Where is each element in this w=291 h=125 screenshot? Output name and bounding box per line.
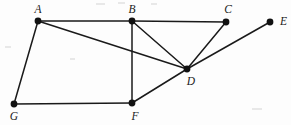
vertex-c [223,19,230,26]
edge-c-d [187,22,226,69]
edges-group [14,21,270,104]
vertex-label-b: B [128,3,135,15]
vertex-a [35,18,42,25]
vertex-e [267,19,274,26]
edge-a-d [38,21,187,69]
vertex-label-f: F [130,110,139,122]
edge-b-c [132,21,226,22]
vertices-group [11,18,274,108]
edge-d-e [187,22,270,69]
edge-a-g [14,21,38,104]
scan-speck-0 [96,3,105,5]
edge-g-f [14,103,132,104]
vertex-label-c: C [224,3,232,15]
graph-canvas: ABCEDGF [0,0,291,125]
vertex-label-d: D [186,75,196,87]
graph-figure: ABCEDGF [0,0,291,125]
edge-f-d [132,69,187,103]
vertex-label-a: A [33,3,42,15]
vertex-d [184,66,191,73]
scan-speck-2 [151,3,157,5]
scan-speck-4 [70,58,75,60]
vertex-g [11,101,18,108]
scan-speck-5 [252,108,262,110]
vertex-label-e: E [279,15,287,27]
vertex-label-g: G [10,110,19,122]
vertex-f [129,100,136,107]
scan-speck-3 [5,46,11,48]
edge-b-d [132,21,187,69]
scan-speck-1 [118,2,125,4]
vertex-b [129,18,136,25]
